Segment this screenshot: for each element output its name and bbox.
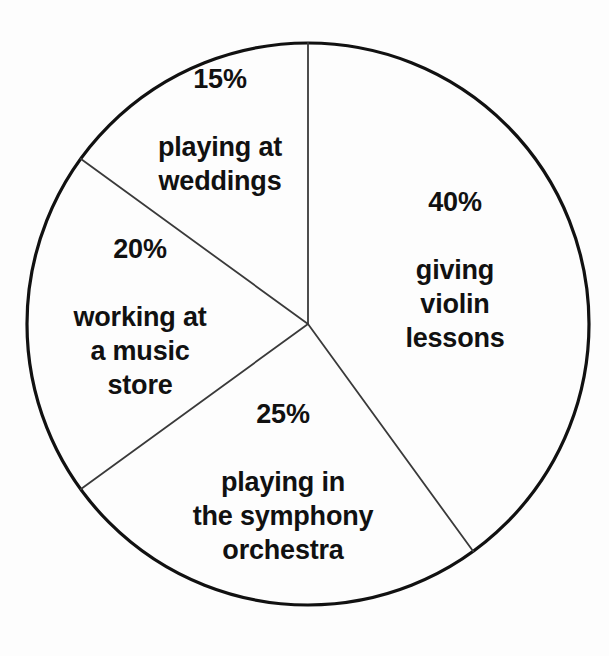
pie-slice-label-weddings: 15% playing at weddings bbox=[158, 28, 282, 232]
pie-slice-description: playing in the symphony orchestra bbox=[193, 465, 374, 567]
pie-slice-percent: 15% bbox=[158, 62, 282, 96]
pie-slice-description: working at a music store bbox=[73, 300, 206, 402]
pie-slice-percent: 25% bbox=[193, 397, 374, 431]
pie-slice-description: playing at weddings bbox=[158, 130, 282, 198]
pie-slice-label-music-store: 20% working at a music store bbox=[73, 198, 206, 436]
pie-slice-label-symphony-orchestra: 25% playing in the symphony orchestra bbox=[193, 363, 374, 601]
pie-slice-percent: 40% bbox=[405, 185, 504, 219]
pie-slice-description: giving violin lessons bbox=[405, 253, 504, 355]
pie-slice-label-giving-violin-lessons: 40% giving violin lessons bbox=[405, 151, 504, 389]
pie-slice-percent: 20% bbox=[73, 232, 206, 266]
pie-chart-figure: 40% giving violin lessons 25% playing in… bbox=[0, 0, 609, 656]
